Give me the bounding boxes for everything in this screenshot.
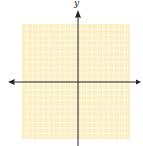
x-axis-left-arrow-icon (8, 79, 15, 85)
x-axis-right-arrow-icon (136, 80, 141, 85)
coordinate-plane (0, 0, 143, 146)
y-axis-up-arrow-icon (75, 10, 81, 18)
y-axis-label: y (74, 0, 79, 8)
